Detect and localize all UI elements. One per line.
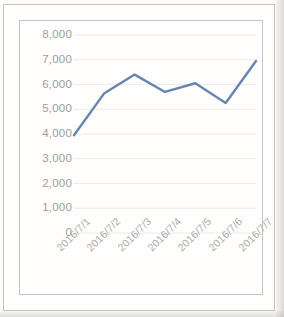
plot-area: 8,0007,0006,0005,0004,0003,0002,0001,000… xyxy=(20,21,262,294)
scanned-page: 8,0007,0006,0005,0004,0003,0002,0001,000… xyxy=(0,0,284,317)
scan-edge-right xyxy=(276,0,284,317)
x-axis: 2016/7/12016/7/22016/7/32016/7/42016/7/5… xyxy=(20,21,262,294)
line-chart[interactable]: 8,0007,0006,0005,0004,0003,0002,0001,000… xyxy=(19,20,263,295)
scan-edge-bottom xyxy=(0,311,284,317)
